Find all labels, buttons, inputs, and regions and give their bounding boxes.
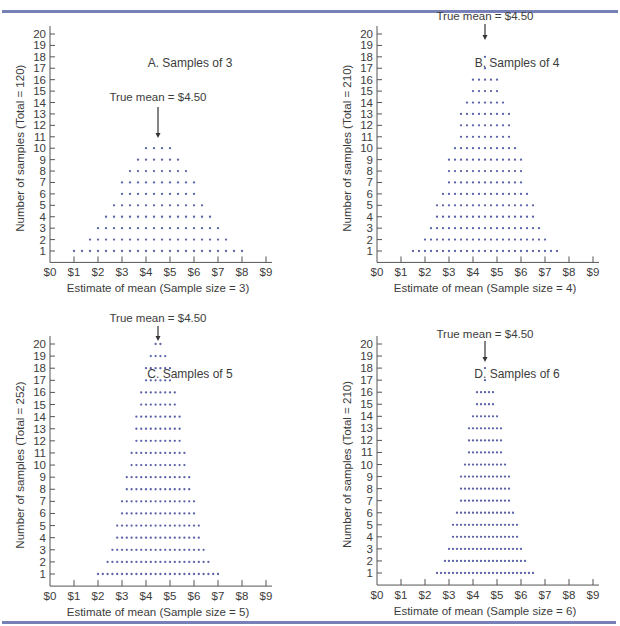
data-dot [512, 572, 514, 574]
data-dot [484, 415, 486, 417]
data-dot [476, 512, 478, 514]
data-dot [500, 439, 502, 441]
y-tick-label: 17 [33, 374, 46, 386]
data-dot [472, 101, 474, 103]
data-dot [178, 452, 180, 454]
data-dot [538, 227, 540, 229]
data-dot [504, 463, 506, 465]
data-dot [472, 158, 474, 160]
data-dot [442, 250, 444, 252]
data-dot [436, 250, 438, 252]
data-dot [169, 238, 171, 240]
y-tick-label: 10 [360, 142, 373, 154]
data-dot [177, 158, 179, 160]
y-tick-label: 1 [367, 567, 373, 579]
data-dot [488, 487, 490, 489]
data-dot [135, 428, 137, 430]
data-dot [460, 250, 462, 252]
data-dot [496, 463, 498, 465]
data-dot [496, 572, 498, 574]
x-tick-label: $0 [44, 590, 57, 602]
data-dot [121, 193, 123, 195]
data-dot [159, 415, 161, 417]
data-dot [538, 238, 540, 240]
data-dot [500, 475, 502, 477]
data-dot [514, 158, 516, 160]
data-dot [472, 170, 474, 172]
data-dot [504, 487, 506, 489]
data-dot [480, 548, 482, 550]
data-dot [97, 227, 99, 229]
data-dot [448, 181, 450, 183]
y-tick-label: 13 [33, 423, 46, 435]
data-dot [472, 548, 474, 550]
y-tick-label: 18 [360, 362, 373, 374]
data-dot [492, 524, 494, 526]
data-dot [111, 549, 113, 551]
data-dot [177, 204, 179, 206]
data-dot [193, 238, 195, 240]
data-dot [137, 170, 139, 172]
data-dot [121, 204, 123, 206]
data-dot [130, 464, 132, 466]
data-dot [159, 379, 161, 381]
y-tick-label: 11 [34, 447, 46, 459]
data-dot [500, 548, 502, 550]
x-tick-label: $8 [563, 266, 576, 278]
data-dot [472, 560, 474, 562]
data-dot [466, 147, 468, 149]
data-dot [130, 512, 132, 514]
data-dot [508, 147, 510, 149]
data-dot [169, 464, 171, 466]
data-dot [154, 391, 156, 393]
data-dot [472, 147, 474, 149]
data-dot [520, 238, 522, 240]
data-dot [472, 536, 474, 538]
true-mean-label: True mean = $4.50 [109, 91, 206, 103]
data-dot [174, 573, 176, 575]
data-dot [484, 439, 486, 441]
data-dot [492, 463, 494, 465]
x-tick-label: $3 [116, 266, 129, 278]
data-dot [135, 452, 137, 454]
data-dot [508, 124, 510, 126]
y-tick-label: 5 [367, 199, 373, 211]
data-dot [121, 549, 123, 551]
y-tick-label: 11 [34, 131, 46, 143]
data-dot [460, 181, 462, 183]
data-dot [484, 216, 486, 218]
data-dot [126, 524, 128, 526]
data-dot [164, 403, 166, 405]
data-dot [129, 193, 131, 195]
data-dot [526, 227, 528, 229]
data-dot [520, 227, 522, 229]
y-tick-label: 8 [40, 165, 46, 177]
data-dot [145, 216, 147, 218]
data-dot [201, 238, 203, 240]
data-dot [492, 548, 494, 550]
data-dot [496, 170, 498, 172]
y-tick-label: 16 [33, 386, 46, 398]
y-axis-label: Number of samples (Total = 252) [14, 381, 26, 548]
data-dot [468, 487, 470, 489]
data-dot [177, 170, 179, 172]
data-dot [164, 561, 166, 563]
y-tick-label: 6 [367, 188, 373, 200]
data-dot [468, 500, 470, 502]
data-dots [412, 56, 558, 252]
data-dot [154, 355, 156, 357]
x-tick-label: $6 [188, 266, 201, 278]
data-dot [448, 204, 450, 206]
data-dot [484, 181, 486, 183]
data-dot [492, 475, 494, 477]
data-dot [496, 548, 498, 550]
data-dot [145, 476, 147, 478]
data-dot [154, 464, 156, 466]
data-dot [185, 238, 187, 240]
y-tick-label: 13 [33, 108, 46, 120]
data-dot [484, 379, 486, 381]
data-dot [442, 193, 444, 195]
data-dot [496, 158, 498, 160]
data-dot [145, 227, 147, 229]
data-dot [492, 536, 494, 538]
